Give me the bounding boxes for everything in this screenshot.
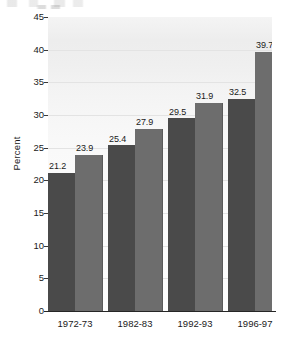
y-tick-25: 25 xyxy=(0,143,44,153)
y-tick-5: 5 xyxy=(0,273,44,283)
y-tick-45: 45 xyxy=(0,12,44,22)
value-label-1982-83-series-1: 25.4 xyxy=(109,134,126,144)
value-label-1992-93-series-2: 31.9 xyxy=(196,91,213,101)
value-label-1972-73-series-1: 21.2 xyxy=(49,161,66,171)
y-tick-35: 35 xyxy=(0,77,44,87)
y-axis-tick-labels: 45 40 35 30 25 20 15 10 5 0 xyxy=(0,0,44,341)
bars-layer xyxy=(48,17,272,311)
bar-1972-73-series-1[interactable] xyxy=(48,173,76,312)
y-tick-10: 10 xyxy=(0,241,44,251)
bar-1996-97-series-2[interactable] xyxy=(255,52,272,311)
value-label-1992-93-series-1: 29.5 xyxy=(169,107,186,117)
bar-1972-73-series-2[interactable] xyxy=(75,155,103,311)
bar-chart-figure: 45 40 35 30 25 20 15 10 5 0 Percent xyxy=(0,0,286,341)
y-tick-30: 30 xyxy=(0,110,44,120)
y-tick-15: 15 xyxy=(0,208,44,218)
bar-1982-83-series-1[interactable] xyxy=(108,145,136,311)
value-label-1972-73-series-2: 23.9 xyxy=(76,143,93,153)
y-tick-0: 0 xyxy=(0,306,44,316)
y-tick-20: 20 xyxy=(0,175,44,185)
value-label-1982-83-series-2: 27.9 xyxy=(136,117,153,127)
value-label-1996-97-series-1: 32.5 xyxy=(229,87,246,97)
x-tick-1972-73: 1972-73 xyxy=(48,318,102,329)
value-label-1996-97-series-2: 39.7 xyxy=(256,40,272,50)
x-tick-1996-97: 1996-97 xyxy=(228,318,282,329)
bar-1992-93-series-1[interactable] xyxy=(168,118,196,311)
plot-area: 21.2 23.9 25.4 27.9 29.5 31.9 32.5 39.7 xyxy=(48,17,272,311)
bar-1992-93-series-2[interactable] xyxy=(195,103,223,311)
bar-1982-83-series-2[interactable] xyxy=(135,129,163,311)
y-axis-title: Percent xyxy=(11,124,22,184)
x-tick-1982-83: 1982-83 xyxy=(108,318,162,329)
x-axis-line xyxy=(44,311,276,312)
bar-1996-97-series-1[interactable] xyxy=(228,99,256,311)
y-tick-40: 40 xyxy=(0,45,44,55)
x-tick-1992-93: 1992-93 xyxy=(168,318,222,329)
